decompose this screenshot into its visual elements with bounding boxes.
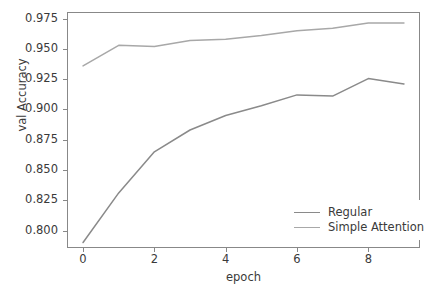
legend-label: Simple Attention (328, 222, 424, 234)
legend-item: Simple Attention (294, 220, 424, 235)
x-tick-label: 8 (353, 254, 383, 266)
legend-line-icon (294, 212, 320, 213)
y-tick-label: 0.850 (4, 164, 58, 176)
x-tick-label: 6 (282, 254, 312, 266)
y-tick-label: 0.975 (4, 13, 58, 25)
legend-line-icon (294, 227, 320, 228)
y-axis-label: val Accuracy (15, 30, 29, 160)
y-tick-label: 0.950 (4, 43, 58, 55)
legend-item: Regular (294, 205, 424, 220)
chart-legend: RegularSimple Attention (288, 200, 428, 240)
y-tick-label: 0.800 (4, 225, 58, 237)
x-tick-label: 2 (139, 254, 169, 266)
y-tick-label: 0.925 (4, 73, 58, 85)
legend-label: Regular (328, 207, 372, 219)
x-tick-label: 4 (211, 254, 241, 266)
chart-figure: 0.8000.8250.8500.8750.9000.9250.9500.975… (0, 0, 428, 288)
y-tick-label: 0.875 (4, 134, 58, 146)
x-axis-label: epoch (67, 270, 420, 284)
series-line (83, 23, 404, 66)
x-tick-label: 0 (68, 254, 98, 266)
y-tick-label: 0.900 (4, 103, 58, 115)
y-tick-label: 0.825 (4, 194, 58, 206)
